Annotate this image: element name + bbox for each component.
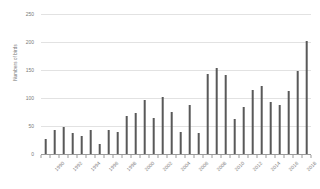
bar-slot [167,14,176,154]
bar-slot [194,14,203,154]
x-tick-label-2006: 2006 [197,160,209,172]
bar-slot [293,14,302,154]
x-tick-label-2000: 2000 [143,160,155,172]
bar-slot [203,14,212,154]
x-tick-label-1990: 1990 [53,160,65,172]
bar-slot [122,14,131,154]
bar-2010[interactable] [224,75,227,154]
bar-1995[interactable] [89,130,92,154]
y-axis-tick-labels: 050100150200250 [0,14,38,154]
x-tick-label-2018: 2018 [305,160,317,172]
bar-2014[interactable] [260,86,263,154]
bar-2000[interactable] [134,113,137,154]
bar-2003[interactable] [161,97,164,154]
bar-slot [41,14,50,154]
x-tick-label-1994: 1994 [89,160,101,172]
bar-slot [257,14,266,154]
bar-1993[interactable] [71,133,74,154]
bar-2012[interactable] [242,107,245,154]
bar-slot [275,14,284,154]
plot-area [41,14,311,154]
bar-slot [77,14,86,154]
x-tick-label-2004: 2004 [179,160,191,172]
bar-slot [68,14,77,154]
bar-2004[interactable] [170,112,173,154]
bar-slot [212,14,221,154]
bar-1991[interactable] [53,130,56,154]
bar-slot [59,14,68,154]
x-axis-tick-labels: 1990199219941996199820002002200420062008… [41,158,311,188]
bar-2015[interactable] [269,102,272,154]
y-tick-label-50: 50 [28,123,34,129]
bar-2001[interactable] [143,100,146,154]
bar-slot [230,14,239,154]
bar-2017[interactable] [287,91,290,154]
bar-2013[interactable] [251,90,254,154]
bar-slot [86,14,95,154]
bar-1998[interactable] [116,132,119,154]
bar-1997[interactable] [107,130,110,154]
x-tick-label-1998: 1998 [125,160,137,172]
bar-2009[interactable] [215,68,218,154]
bar-slot [248,14,257,154]
bar-slot [140,14,149,154]
bar-slot [131,14,140,154]
bar-slot [284,14,293,154]
x-tick-label-1996: 1996 [107,160,119,172]
bar-slot [185,14,194,154]
bar-1990[interactable] [44,139,47,154]
bar-1992[interactable] [62,127,65,154]
bar-2016[interactable] [278,105,281,154]
y-tick-label-250: 250 [26,11,34,17]
bar-slot [149,14,158,154]
x-tick-label-2008: 2008 [215,160,227,172]
bar-slot [50,14,59,154]
bar-1999[interactable] [125,116,128,154]
bar-2005[interactable] [179,132,182,154]
y-tick-label-0: 0 [31,151,34,157]
bar-1994[interactable] [80,136,83,154]
bar-2006[interactable] [188,105,191,154]
x-tick-label-2010: 2010 [233,160,245,172]
bar-2018[interactable] [296,71,299,154]
y-tick-label-200: 200 [26,39,34,45]
bar-slot [302,14,311,154]
x-tick-label-2002: 2002 [161,160,173,172]
bar-slot [158,14,167,154]
bar-1996[interactable] [98,144,101,154]
bar-slot [95,14,104,154]
bar-2011[interactable] [233,119,236,154]
bar-slot [221,14,230,154]
bar-slot [113,14,122,154]
x-tick-label-2012: 2012 [251,160,263,172]
x-tick-label-2014: 2014 [269,160,281,172]
bar-slot [176,14,185,154]
bar-slot [266,14,275,154]
bars-layer [41,14,311,154]
x-tick-label-1992: 1992 [71,160,83,172]
y-tick-label-100: 100 [26,95,34,101]
bar-slot [104,14,113,154]
bar-2007[interactable] [197,133,200,154]
bar-2019[interactable] [305,41,308,154]
y-tick-label-150: 150 [26,67,34,73]
bar-slot [239,14,248,154]
bar-2008[interactable] [206,74,209,154]
bar-2002[interactable] [152,118,155,154]
bar-chart: Numbers of birds 050100150200250 1990199… [0,0,320,189]
x-tick-label-2016: 2016 [287,160,299,172]
